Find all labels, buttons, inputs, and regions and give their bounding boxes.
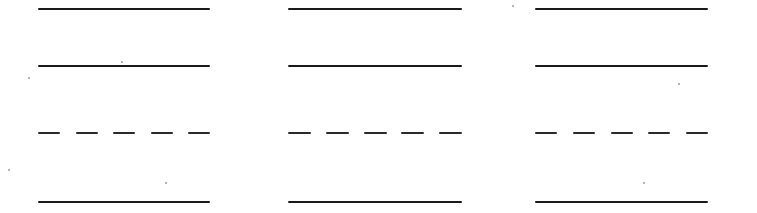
ruled-sheet [0,0,757,213]
dash-segment [38,132,60,134]
solid-ruled-line [38,8,210,10]
solid-ruled-line [38,201,210,203]
scan-speck [165,182,167,184]
dash-segment [573,132,595,134]
scan-speck [28,77,30,79]
dashed-guide-line [38,132,210,134]
scan-speck [678,83,680,85]
dash-segment [76,132,98,134]
dash-segment [151,132,173,134]
dash-segment [113,132,135,134]
dashed-guide-line [535,132,708,134]
dash-segment [439,132,462,134]
dash-segment [288,132,311,134]
scan-speck [512,5,514,7]
dash-segment [535,132,557,134]
column-1 [38,0,210,213]
column-2 [288,0,462,213]
dash-segment [364,132,387,134]
dash-segment [686,132,708,134]
solid-ruled-line [535,201,708,203]
scan-speck [643,182,645,184]
scan-speck [8,169,10,171]
solid-ruled-line [288,8,462,10]
dashed-guide-line [288,132,462,134]
solid-ruled-line [535,65,708,67]
scan-speck [121,61,123,63]
dash-segment [648,132,670,134]
dash-segment [611,132,633,134]
column-3 [535,0,708,213]
dash-segment [188,132,210,134]
dash-segment [401,132,424,134]
solid-ruled-line [38,65,210,67]
dash-segment [326,132,349,134]
solid-ruled-line [288,201,462,203]
solid-ruled-line [535,8,708,10]
solid-ruled-line [288,65,462,67]
